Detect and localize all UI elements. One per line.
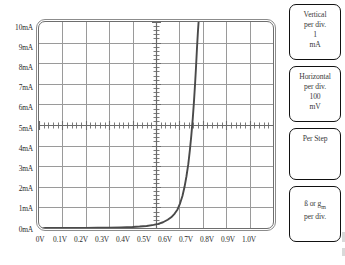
beta-gm-title: ß or gm — [290, 199, 340, 212]
y-tick-label: 3mA — [0, 165, 33, 173]
x-tick-label: 1.0V — [236, 236, 262, 244]
y-tick-label: 4mA — [0, 145, 33, 153]
curve-tracer-screen: 10mA 9mA 8mA 7mA 6mA 5mA 4mA 3mA 2mA 1mA… — [0, 0, 345, 265]
beta-gm-title-prefix: ß or g — [304, 199, 321, 208]
y-tick-label: 8mA — [0, 64, 33, 72]
horizontal-control-subtitle: per div. — [290, 82, 340, 92]
beta-gm-subtitle: per div. — [290, 212, 340, 222]
vertical-control-unit: mA — [290, 40, 340, 50]
y-tick-label: 0mA — [0, 226, 33, 234]
y-tick-label: 1mA — [0, 205, 33, 213]
per-step-title: Per Step — [290, 134, 340, 144]
y-tick-label: 5mA — [0, 125, 33, 133]
vertical-per-div-control[interactable]: Vertical per div. 1 mA — [289, 4, 341, 60]
horizontal-control-value: 100 — [290, 92, 340, 102]
y-tick-label: 2mA — [0, 185, 33, 193]
beta-gm-per-div-control[interactable]: ß or gm per div. — [289, 186, 341, 242]
per-step-control[interactable]: Per Step — [289, 128, 341, 180]
beta-gm-subscript: m — [321, 204, 326, 210]
y-tick-label: 9mA — [0, 44, 33, 52]
horizontal-per-div-control[interactable]: Horizontal per div. 100 mV — [289, 66, 341, 122]
y-tick-label: 10mA — [0, 24, 33, 32]
y-tick-label: 7mA — [0, 84, 33, 92]
y-tick-label: 6mA — [0, 104, 33, 112]
vertical-control-title: Vertical — [290, 10, 340, 20]
horizontal-control-unit: mV — [290, 102, 340, 112]
vertical-control-value: 1 — [290, 30, 340, 40]
vertical-control-subtitle: per div. — [290, 20, 340, 30]
horizontal-control-title: Horizontal — [290, 72, 340, 82]
